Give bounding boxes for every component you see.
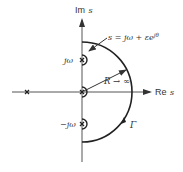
lower-pole-label: −jω bbox=[60, 120, 76, 129]
upper-pole-label: jω bbox=[62, 56, 73, 65]
indent-leader-arrow bbox=[89, 38, 107, 51]
indent-equation-label: s = jω + εejθ bbox=[108, 32, 159, 42]
contour-label: Γ bbox=[129, 120, 137, 130]
real-axis-label: Re s bbox=[155, 87, 174, 97]
radius-label: R → ∞ bbox=[103, 76, 130, 86]
imaginary-axis-label: Im s bbox=[75, 5, 93, 15]
real-axis-arrowhead bbox=[143, 89, 152, 95]
nyquist-contour-diagram: Im s Re s s = jω + εejθ jω −jω R → ∞ Γ bbox=[0, 0, 183, 172]
imaginary-axis-arrowhead bbox=[79, 18, 85, 27]
